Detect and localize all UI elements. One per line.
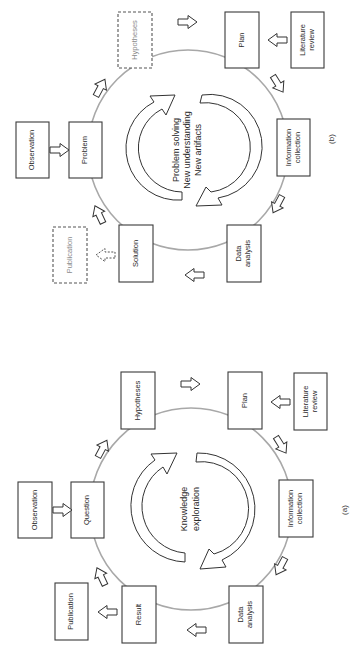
node-publication: Publication bbox=[53, 227, 87, 283]
center-text: Problem solving New understanding New ar… bbox=[171, 111, 203, 189]
arrow-result-to-publication-icon bbox=[98, 606, 117, 619]
svg-text:Publication: Publication bbox=[66, 593, 75, 630]
node-plan: Plan bbox=[228, 372, 262, 429]
svg-text:Plan: Plan bbox=[237, 32, 246, 47]
svg-text:Plan: Plan bbox=[240, 393, 249, 408]
node-question: Question bbox=[71, 482, 104, 538]
svg-text:Observation: Observation bbox=[30, 490, 39, 530]
node-plan: Plan bbox=[225, 12, 259, 68]
node-information-collection: Information collection bbox=[277, 119, 310, 176]
arrow-observation-to-question-icon bbox=[53, 504, 72, 517]
arrow-solution-to-publication-icon bbox=[96, 249, 115, 262]
arrow-result-to-question-icon bbox=[91, 565, 111, 588]
center-line-2: New understanding bbox=[182, 111, 192, 189]
svg-text:review: review bbox=[307, 29, 316, 51]
node-information-collection: Information collection bbox=[279, 480, 313, 537]
svg-text:Observation: Observation bbox=[27, 130, 36, 170]
diagram-b: Problem solving New understanding New ar… bbox=[16, 12, 336, 283]
center-line-3: New artifacts bbox=[193, 123, 203, 176]
svg-text:analysis: analysis bbox=[243, 240, 252, 267]
node-result: Result bbox=[122, 586, 156, 643]
diagram-a: Knowledge exploration Hypotheses Plan Li… bbox=[18, 372, 349, 643]
node-literature-review: Literature review bbox=[291, 12, 324, 68]
arrow-literature-to-plan-icon bbox=[271, 396, 290, 409]
arrow-information-to-data-analysis-icon bbox=[267, 193, 287, 216]
svg-text:analysis: analysis bbox=[245, 601, 254, 628]
node-literature-review: Literature review bbox=[294, 373, 327, 430]
node-solution: Solution bbox=[119, 225, 153, 282]
svg-text:Solution: Solution bbox=[131, 240, 140, 267]
svg-text:Literature: Literature bbox=[301, 386, 310, 418]
arrow-data-analysis-to-result-icon bbox=[187, 624, 206, 637]
center-line-2: exploration bbox=[191, 487, 201, 531]
node-observation: Observation bbox=[16, 122, 49, 178]
svg-text:Information: Information bbox=[286, 490, 295, 528]
curved-arrow-right-icon bbox=[196, 453, 255, 569]
node-hypotheses: Hypotheses bbox=[118, 12, 152, 68]
svg-text:collection: collection bbox=[293, 132, 302, 163]
node-data-analysis: Data analysis bbox=[229, 586, 263, 643]
svg-text:Hypotheses: Hypotheses bbox=[130, 20, 139, 60]
svg-text:collection: collection bbox=[295, 493, 304, 524]
svg-text:Hypotheses: Hypotheses bbox=[133, 380, 142, 420]
arrow-plan-to-information-icon bbox=[270, 434, 291, 457]
center-text: Knowledge exploration bbox=[179, 487, 201, 532]
svg-text:Data: Data bbox=[234, 245, 243, 262]
node-hypotheses: Hypotheses bbox=[121, 372, 155, 429]
curved-arrow-right-icon bbox=[196, 94, 262, 206]
svg-text:Literature: Literature bbox=[298, 24, 307, 56]
node-observation: Observation bbox=[18, 482, 52, 538]
arrow-hypotheses-to-plan-icon bbox=[181, 378, 200, 391]
node-problem: Problem bbox=[69, 122, 102, 178]
center-line-1: Problem solving bbox=[171, 118, 181, 182]
figure-label-b: (b) bbox=[327, 134, 336, 144]
svg-text:review: review bbox=[310, 390, 319, 412]
research-cycle-figure: Problem solving New understanding New ar… bbox=[0, 0, 364, 662]
arrow-observation-to-problem-icon bbox=[50, 144, 69, 157]
svg-text:Publication: Publication bbox=[65, 237, 74, 274]
figure-label-a: (a) bbox=[340, 505, 349, 515]
arrow-problem-to-hypotheses-icon bbox=[90, 76, 110, 99]
svg-text:Data: Data bbox=[236, 606, 245, 623]
svg-text:Problem: Problem bbox=[80, 136, 89, 164]
svg-text:Information: Information bbox=[284, 129, 293, 167]
center-line-1: Knowledge bbox=[179, 487, 189, 532]
arrow-plan-to-information-icon bbox=[267, 73, 288, 96]
node-publication: Publication bbox=[55, 583, 88, 640]
curved-arrow-left-icon bbox=[131, 453, 185, 562]
node-data-analysis: Data analysis bbox=[227, 225, 261, 282]
arrow-hypotheses-to-plan-icon bbox=[178, 16, 197, 29]
svg-text:Result: Result bbox=[134, 603, 143, 625]
arrow-data-analysis-to-solution-icon bbox=[185, 269, 204, 282]
svg-text:Question: Question bbox=[82, 495, 91, 525]
arrow-literature-to-plan-icon bbox=[268, 34, 287, 47]
